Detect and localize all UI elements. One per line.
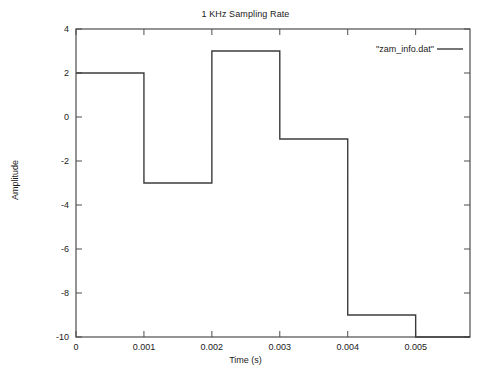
y-axis-ticks: 420-2-4-6-8-10 xyxy=(56,24,470,342)
x-tick-label: 0.002 xyxy=(201,342,224,352)
plot-area: 420-2-4-6-8-10 00.0010.0020.0030.0040.00… xyxy=(0,0,491,373)
x-axis-ticks: 00.0010.0020.0030.0040.005 xyxy=(73,29,426,352)
legend-entry-label: "zam_info.dat" xyxy=(376,44,434,54)
x-tick-label: 0.003 xyxy=(269,342,292,352)
y-tick-label: -6 xyxy=(61,244,69,254)
y-tick-label: -4 xyxy=(61,200,69,210)
y-tick-label: 0 xyxy=(64,112,69,122)
series-path xyxy=(76,51,470,337)
chart-figure: 1 KHz Sampling Rate Time (s) Amplitude 4… xyxy=(0,0,491,373)
plot-frame xyxy=(76,29,470,337)
x-tick-label: 0.005 xyxy=(404,342,427,352)
x-tick-label: 0 xyxy=(73,342,78,352)
chart-legend: "zam_info.dat" xyxy=(376,44,463,54)
x-tick-label: 0.001 xyxy=(133,342,156,352)
data-series-group xyxy=(76,51,470,337)
y-tick-label: -8 xyxy=(61,288,69,298)
x-tick-label: 0.004 xyxy=(336,342,359,352)
y-tick-label: -2 xyxy=(61,156,69,166)
y-tick-label: 4 xyxy=(64,24,69,34)
y-tick-label: 2 xyxy=(64,68,69,78)
y-tick-label: -10 xyxy=(56,332,69,342)
